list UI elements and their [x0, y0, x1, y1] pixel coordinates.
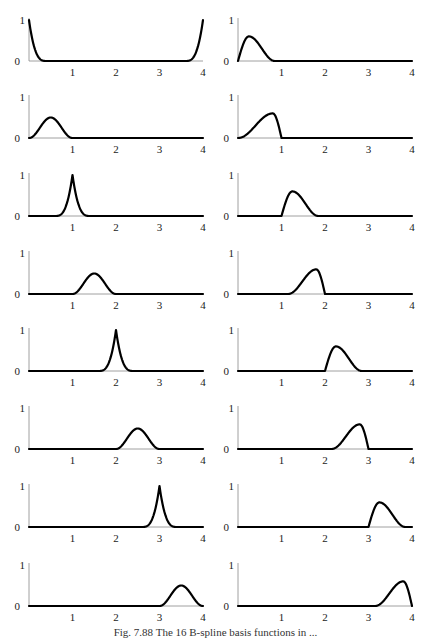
x-tick-1: 1: [70, 221, 76, 233]
x-tick-2: 2: [113, 611, 119, 623]
x-tick-1: 1: [70, 299, 76, 311]
x-tick-3: 3: [366, 66, 372, 78]
y-tick-0: 0: [224, 132, 230, 144]
y-tick-0: 0: [224, 210, 230, 222]
basis-curve: [29, 429, 203, 450]
x-tick-3: 3: [366, 611, 372, 623]
basis-curve: [238, 581, 412, 606]
x-tick-2: 2: [113, 532, 119, 544]
basis-curve: [29, 274, 203, 295]
x-tick-2: 2: [322, 532, 328, 544]
x-tick-1: 1: [70, 454, 76, 466]
x-tick-1: 1: [279, 532, 285, 544]
y-tick-0: 0: [224, 365, 230, 377]
y-tick-1: 1: [229, 91, 235, 103]
x-tick-4: 4: [200, 454, 206, 466]
x-tick-1: 1: [70, 611, 76, 623]
y-tick-0: 0: [15, 521, 21, 533]
y-tick-1: 1: [229, 14, 235, 26]
x-tick-3: 3: [157, 221, 163, 233]
x-tick-3: 3: [366, 143, 372, 155]
x-tick-1: 1: [279, 376, 285, 388]
basis-curve: [238, 269, 412, 294]
y-tick-1: 1: [20, 402, 26, 414]
x-tick-4: 4: [200, 611, 206, 623]
x-tick-3: 3: [157, 66, 163, 78]
panel-9: 011234: [15, 324, 207, 388]
x-tick-2: 2: [113, 143, 119, 155]
x-tick-3: 3: [366, 454, 372, 466]
x-tick-1: 1: [279, 454, 285, 466]
x-tick-4: 4: [409, 454, 415, 466]
basis-curve: [29, 175, 203, 216]
x-tick-4: 4: [200, 532, 206, 544]
panel-11: 011234: [15, 402, 207, 466]
y-tick-0: 0: [15, 132, 21, 144]
y-tick-1: 1: [20, 324, 26, 336]
x-tick-4: 4: [409, 221, 415, 233]
x-tick-3: 3: [157, 611, 163, 623]
x-tick-3: 3: [366, 299, 372, 311]
x-tick-1: 1: [279, 611, 285, 623]
x-tick-2: 2: [322, 143, 328, 155]
panel-6: 011234: [224, 169, 416, 233]
x-tick-4: 4: [409, 66, 415, 78]
x-tick-1: 1: [70, 66, 76, 78]
panel-2: 011234: [224, 14, 416, 78]
basis-curve: [29, 330, 203, 371]
x-tick-4: 4: [409, 299, 415, 311]
basis-curve: [238, 113, 412, 138]
x-tick-1: 1: [279, 66, 285, 78]
y-tick-1: 1: [229, 247, 235, 259]
x-tick-1: 1: [279, 221, 285, 233]
x-tick-2: 2: [113, 66, 119, 78]
y-tick-1: 1: [20, 559, 26, 571]
y-tick-0: 0: [224, 288, 230, 300]
basis-curve: [238, 424, 412, 449]
x-tick-1: 1: [279, 143, 285, 155]
x-tick-2: 2: [113, 221, 119, 233]
panel-10: 011234: [224, 324, 416, 388]
x-tick-3: 3: [157, 299, 163, 311]
basis-curve: [29, 586, 203, 607]
y-tick-0: 0: [224, 600, 230, 612]
basis-function-figure: 0112340112340112340112340112340112340112…: [0, 0, 431, 641]
y-tick-0: 0: [15, 365, 21, 377]
panel-16: 011234: [224, 559, 416, 623]
x-tick-2: 2: [322, 376, 328, 388]
basis-curve: [238, 191, 412, 216]
x-tick-3: 3: [157, 532, 163, 544]
y-tick-1: 1: [20, 14, 26, 26]
x-tick-3: 3: [366, 376, 372, 388]
x-tick-1: 1: [279, 299, 285, 311]
y-tick-0: 0: [15, 600, 21, 612]
x-tick-4: 4: [200, 376, 206, 388]
panel-7: 011234: [15, 247, 207, 311]
x-tick-2: 2: [113, 376, 119, 388]
x-tick-2: 2: [322, 454, 328, 466]
x-tick-4: 4: [200, 66, 206, 78]
x-tick-4: 4: [200, 143, 206, 155]
x-tick-4: 4: [200, 299, 206, 311]
x-tick-2: 2: [113, 454, 119, 466]
x-tick-3: 3: [157, 143, 163, 155]
x-tick-4: 4: [200, 221, 206, 233]
basis-curve: [29, 486, 203, 527]
x-tick-2: 2: [322, 221, 328, 233]
basis-curve: [238, 502, 412, 527]
panel-3: 011234: [15, 91, 207, 155]
y-tick-1: 1: [229, 559, 235, 571]
y-tick-1: 1: [229, 480, 235, 492]
y-tick-0: 0: [15, 210, 21, 222]
figure-caption: Fig. 7.88 The 16 B-spline basis function…: [0, 626, 431, 638]
y-tick-0: 0: [15, 55, 21, 67]
y-tick-1: 1: [229, 169, 235, 181]
panel-14: 011234: [224, 480, 416, 544]
x-tick-2: 2: [113, 299, 119, 311]
x-tick-2: 2: [322, 66, 328, 78]
x-tick-1: 1: [70, 376, 76, 388]
x-tick-1: 1: [70, 143, 76, 155]
y-tick-1: 1: [20, 247, 26, 259]
x-tick-3: 3: [366, 532, 372, 544]
panel-12: 011234: [224, 402, 416, 466]
